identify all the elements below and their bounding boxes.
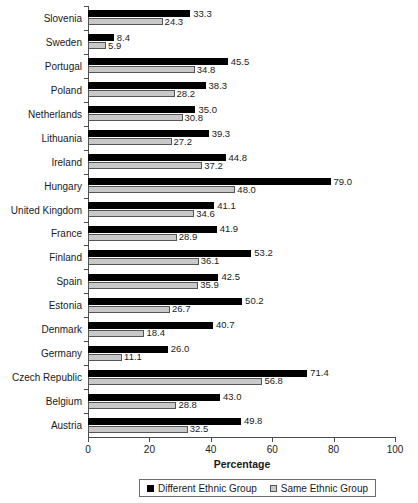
bar-row: 56.8 [88, 378, 395, 385]
x-axis-tick-label: 60 [267, 444, 278, 455]
bar-value-label: 79.0 [334, 177, 353, 187]
x-axis-tick-label: 20 [144, 444, 155, 455]
y-axis-tick [84, 222, 88, 223]
category-group: Ireland44.837.2 [88, 150, 395, 174]
legend-swatch-different [147, 485, 154, 492]
bar-different-ethnic-group: 42.5 [88, 274, 218, 281]
legend-item: Same Ethnic Group [270, 483, 368, 494]
bar-same-ethnic-group: 37.2 [88, 162, 202, 169]
bar-value-label: 39.3 [212, 129, 231, 139]
category-label: Lithuania [41, 132, 82, 143]
y-axis-tick [84, 54, 88, 55]
bar-value-label: 44.8 [229, 153, 248, 163]
y-axis-tick [84, 126, 88, 127]
y-axis-tick [84, 341, 88, 342]
category-group: Estonia50.226.7 [88, 293, 395, 317]
bar-row: 26.7 [88, 306, 395, 313]
category-label: Spain [56, 276, 82, 287]
bar-row: 43.0 [88, 394, 395, 401]
category-group: Hungary79.048.0 [88, 174, 395, 198]
bar-same-ethnic-group: 28.8 [88, 402, 176, 409]
bar-row: 33.3 [88, 10, 395, 17]
bar-row: 34.8 [88, 66, 395, 73]
bar-same-ethnic-group: 28.2 [88, 90, 175, 97]
category-label: Germany [41, 348, 82, 359]
bar-row: 37.2 [88, 162, 395, 169]
y-axis-tick [84, 198, 88, 199]
bar-same-ethnic-group: 35.9 [88, 282, 198, 289]
bar-same-ethnic-group: 24.3 [88, 18, 163, 25]
bar-value-label: 43.0 [223, 392, 242, 402]
x-axis-tick [395, 437, 396, 442]
bar-same-ethnic-group: 11.1 [88, 354, 122, 361]
y-axis-tick [84, 269, 88, 270]
y-axis-tick [84, 317, 88, 318]
bar-row: 30.8 [88, 114, 395, 121]
plot-area: Slovenia33.324.3Sweden8.45.9Portugal45.5… [88, 6, 395, 437]
category-group: Finland53.236.1 [88, 245, 395, 269]
bar-different-ethnic-group: 79.0 [88, 178, 331, 185]
bar-different-ethnic-group: 41.9 [88, 226, 217, 233]
y-axis-tick [84, 293, 88, 294]
y-axis-tick [84, 245, 88, 246]
bar-same-ethnic-group: 36.1 [88, 258, 199, 265]
category-label: Belgium [46, 396, 82, 407]
bar-value-label: 28.9 [179, 232, 198, 242]
category-group: Slovenia33.324.3 [88, 6, 395, 30]
bar-row: 42.5 [88, 274, 395, 281]
bar-value-label: 71.4 [310, 368, 329, 378]
category-group: Sweden8.45.9 [88, 30, 395, 54]
x-axis-tick [149, 437, 150, 442]
y-axis-tick [84, 174, 88, 175]
category-label: Denmark [41, 324, 82, 335]
category-group: Denmark40.718.4 [88, 317, 395, 341]
category-group: Germany26.011.1 [88, 341, 395, 365]
bar-row: 71.4 [88, 370, 395, 377]
bar-row: 35.0 [88, 106, 395, 113]
bar-different-ethnic-group: 49.8 [88, 418, 241, 425]
bar-same-ethnic-group: 48.0 [88, 186, 235, 193]
bar-row: 38.3 [88, 82, 395, 89]
bar-value-label: 34.6 [196, 209, 215, 219]
category-label: Austria [51, 420, 82, 431]
category-label: Czech Republic [12, 372, 82, 383]
bar-value-label: 56.8 [264, 376, 283, 386]
bar-value-label: 41.9 [220, 224, 239, 234]
bar-different-ethnic-group: 50.2 [88, 298, 242, 305]
y-axis-tick [84, 389, 88, 390]
category-group: Poland38.328.2 [88, 78, 395, 102]
x-axis-tick [334, 437, 335, 442]
bar-row: 8.4 [88, 34, 395, 41]
bar-row: 35.9 [88, 282, 395, 289]
category-label: Portugal [45, 60, 82, 71]
category-group: Lithuania39.327.2 [88, 126, 395, 150]
category-label: Estonia [49, 300, 82, 311]
bar-same-ethnic-group: 27.2 [88, 138, 172, 145]
y-axis-tick [84, 102, 88, 103]
bar-row: 24.3 [88, 18, 395, 25]
y-axis-tick [84, 6, 88, 7]
category-group: France41.928.9 [88, 222, 395, 246]
bar-value-label: 18.4 [146, 328, 165, 338]
bar-same-ethnic-group: 32.5 [88, 426, 188, 433]
bar-different-ethnic-group: 53.2 [88, 250, 251, 257]
category-label: Sweden [46, 36, 82, 47]
bar-value-label: 32.5 [190, 424, 209, 434]
bar-row: 53.2 [88, 250, 395, 257]
legend-label: Different Ethnic Group [158, 483, 257, 494]
bar-value-label: 36.1 [201, 256, 220, 266]
bar-row: 28.2 [88, 90, 395, 97]
bar-same-ethnic-group: 28.9 [88, 234, 177, 241]
bar-same-ethnic-group: 5.9 [88, 42, 106, 49]
bar-different-ethnic-group: 43.0 [88, 394, 220, 401]
bar-row: 40.7 [88, 322, 395, 329]
category-group: Netherlands35.030.8 [88, 102, 395, 126]
bar-row: 48.0 [88, 186, 395, 193]
x-axis-line [88, 437, 396, 438]
bar-value-label: 5.9 [108, 41, 121, 51]
y-axis-tick [84, 30, 88, 31]
category-label: Finland [49, 252, 82, 263]
bar-value-label: 28.8 [178, 400, 197, 410]
bar-same-ethnic-group: 34.8 [88, 66, 195, 73]
y-axis-tick [84, 150, 88, 151]
